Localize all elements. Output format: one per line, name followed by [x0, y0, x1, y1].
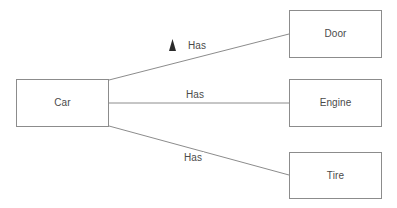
entity-label-car: Car: [54, 98, 70, 108]
solid-triangle-up-icon: [168, 39, 177, 51]
edge-label-car-has-tire: Has: [182, 152, 204, 164]
diagram-canvas: Car Door Engine Tire Has Has Has: [0, 0, 397, 208]
entity-box-door[interactable]: Door: [289, 10, 382, 58]
entity-label-tire: Tire: [327, 171, 344, 181]
edge-label-car-has-door: Has: [186, 40, 208, 52]
edge-label-car-has-engine: Has: [184, 89, 206, 101]
entity-box-car[interactable]: Car: [16, 79, 109, 127]
entity-box-engine[interactable]: Engine: [289, 79, 382, 127]
entity-label-engine: Engine: [320, 98, 352, 108]
edge-car-has-tire[interactable]: [109, 126, 289, 175]
entity-box-tire[interactable]: Tire: [289, 152, 382, 199]
entity-label-door: Door: [324, 29, 346, 39]
